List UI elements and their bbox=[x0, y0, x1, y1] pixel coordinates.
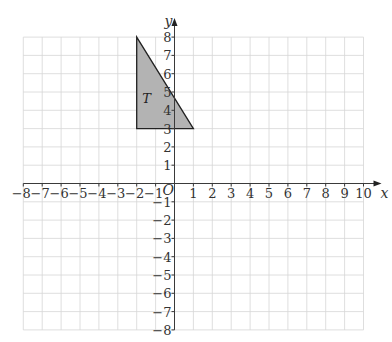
y-tick-label: 4 bbox=[163, 103, 171, 118]
x-axis-label: x bbox=[381, 185, 389, 201]
coordinate-grid-diagram: TxyO−8−7−6−5−4−3−2−112345678910−8−7−6−5−… bbox=[0, 0, 392, 342]
y-tick-label: −4 bbox=[152, 250, 171, 265]
y-tick-label: 7 bbox=[163, 48, 171, 63]
x-tick-label: 8 bbox=[322, 186, 330, 201]
y-tick-label: −5 bbox=[152, 268, 171, 283]
shape-label-T: T bbox=[142, 91, 152, 106]
x-tick-label: −4 bbox=[87, 186, 106, 201]
y-tick-label: −8 bbox=[152, 323, 171, 338]
x-tick-label: −6 bbox=[50, 186, 69, 201]
y-tick-label: 2 bbox=[163, 140, 171, 155]
y-tick-label: −6 bbox=[152, 286, 171, 301]
tick-labels: TxyO−8−7−6−5−4−3−2−112345678910−8−7−6−5−… bbox=[12, 13, 389, 338]
axes bbox=[23, 18, 381, 330]
x-tick-label: 6 bbox=[284, 186, 292, 201]
x-tick-label: −2 bbox=[125, 186, 144, 201]
y-tick-label: −1 bbox=[152, 195, 171, 210]
x-tick-label: 5 bbox=[265, 186, 273, 201]
y-tick-label: 1 bbox=[163, 158, 171, 173]
x-tick-label: 1 bbox=[189, 186, 197, 201]
x-tick-label: −8 bbox=[12, 186, 31, 201]
x-tick-label: 2 bbox=[208, 186, 216, 201]
x-tick-label: −7 bbox=[31, 186, 50, 201]
x-tick-label: −3 bbox=[106, 186, 125, 201]
y-tick-label: −2 bbox=[152, 213, 171, 228]
y-tick-label: 8 bbox=[163, 30, 171, 45]
x-tick-label: 9 bbox=[340, 186, 348, 201]
y-tick-label: −7 bbox=[152, 305, 171, 320]
x-tick-label: −5 bbox=[68, 186, 87, 201]
y-axis-label: y bbox=[164, 13, 174, 29]
y-tick-label: 6 bbox=[163, 67, 171, 82]
x-tick-label: 10 bbox=[355, 186, 372, 201]
y-tick-label: 3 bbox=[163, 122, 171, 137]
y-tick-label: −3 bbox=[152, 231, 171, 246]
x-tick-label: 3 bbox=[227, 186, 235, 201]
x-tick-label: 7 bbox=[303, 186, 311, 201]
y-tick-label: 5 bbox=[163, 85, 171, 100]
x-tick-label: 4 bbox=[246, 186, 254, 201]
